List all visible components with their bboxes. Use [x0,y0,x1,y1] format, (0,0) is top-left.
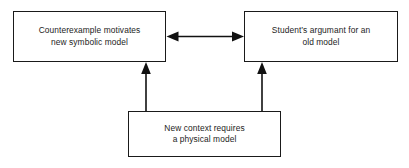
arrowhead-up-left [141,62,151,74]
node-student-argument-label: Student’s argumant for an old model [272,25,370,48]
arrow-new-context-to-counterexample [141,62,151,111]
arrow-new-context-to-student-argument [257,62,267,111]
arrowhead-left [167,32,179,42]
flow-diagram: Counterexample motivates new symbolic mo… [0,0,409,168]
arrow-counterexample-student-argument [167,32,245,42]
arrowhead-right [232,32,244,42]
node-student-argument: Student’s argumant for an old model [244,11,398,62]
node-new-context: New context requires a physical model [128,111,281,157]
arrowhead-up-right [257,62,267,74]
node-counterexample-label: Counterexample motivates new symbolic mo… [39,25,141,48]
node-new-context-label: New context requires a physical model [164,123,244,146]
node-counterexample: Counterexample motivates new symbolic mo… [13,11,166,62]
